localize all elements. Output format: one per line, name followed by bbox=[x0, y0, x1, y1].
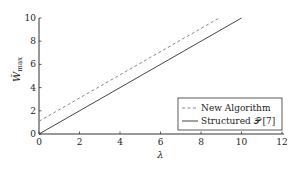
legend-label: New Algorithm bbox=[201, 103, 271, 113]
y-tick-label: 8 bbox=[30, 36, 36, 46]
y-axis-label: W̃max bbox=[11, 57, 24, 82]
y-tick-label: 4 bbox=[30, 83, 36, 93]
x-tick-label: 0 bbox=[36, 137, 42, 147]
x-tick-label: 4 bbox=[117, 137, 123, 147]
y-tick-label: 10 bbox=[25, 13, 37, 23]
x-axis-label: λ bbox=[156, 149, 163, 160]
y-tick-label: 6 bbox=[30, 59, 36, 69]
x-tick-label: 12 bbox=[276, 137, 287, 147]
y-tick-label: 2 bbox=[30, 106, 36, 116]
x-tick-label: 2 bbox=[77, 137, 83, 147]
x-tick-label: 6 bbox=[158, 137, 164, 147]
legend-label: Structured 𝒫 [7] bbox=[201, 116, 275, 126]
x-tick-label: 8 bbox=[198, 137, 204, 147]
y-tick-label: 0 bbox=[30, 129, 36, 139]
chart: 0246810120246810λW̃maxNew AlgorithmStruc… bbox=[0, 0, 300, 171]
x-tick-label: 10 bbox=[236, 137, 248, 147]
